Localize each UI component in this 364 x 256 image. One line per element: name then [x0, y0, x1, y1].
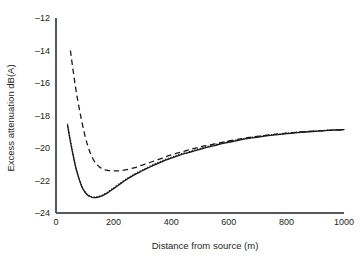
chart-figure: –24–22–20–18–16–14–12 02004006008001000 … — [0, 0, 364, 256]
x-tick-label: 0 — [53, 217, 58, 227]
y-tick-label: –18 — [35, 111, 50, 121]
chart-canvas: –24–22–20–18–16–14–12 02004006008001000 … — [0, 0, 364, 256]
y-tick-label: –16 — [35, 78, 50, 88]
axes-group — [56, 18, 344, 213]
x-tick-label: 800 — [279, 217, 294, 227]
x-tick-label: 200 — [106, 217, 121, 227]
y-tick-label: –22 — [35, 176, 50, 186]
series-dotted-curve — [68, 124, 344, 197]
y-tick-label: –20 — [35, 143, 50, 153]
x-tick-labels: 02004006008001000 — [53, 217, 354, 227]
y-tick-label: –14 — [35, 46, 50, 56]
series-dashed-curve — [70, 51, 344, 171]
y-axis-title: Excess attenuation dB(A) — [5, 64, 16, 171]
x-tick-label: 600 — [221, 217, 236, 227]
x-tick-label: 1000 — [334, 217, 354, 227]
y-tick-label: –24 — [35, 208, 50, 218]
data-series-group — [68, 51, 344, 198]
series-solid-curve — [68, 125, 344, 197]
x-tick-label: 400 — [164, 217, 179, 227]
x-axis-title: Distance from source (m) — [152, 240, 259, 251]
y-tick-label: –12 — [35, 13, 50, 23]
y-tick-labels: –24–22–20–18–16–14–12 — [35, 13, 50, 218]
